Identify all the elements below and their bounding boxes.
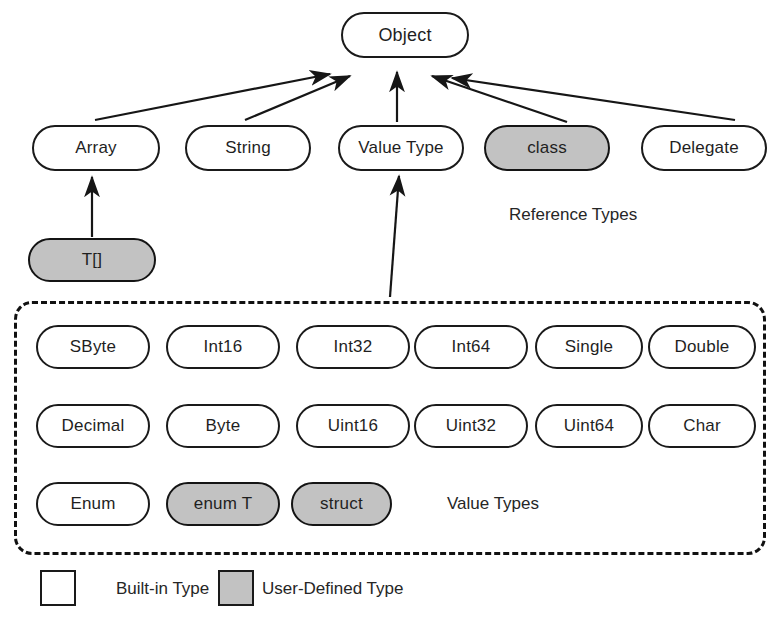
- node-enum-label: Enum: [70, 494, 115, 514]
- legend-label-built-in: Built-in Type: [116, 579, 209, 599]
- edge-array-to-object: [95, 74, 330, 120]
- node-enum[interactable]: Enum: [36, 482, 150, 526]
- edge-valuetypes-group-to-valuetype: [390, 176, 399, 297]
- node-sbyte[interactable]: SByte: [36, 325, 150, 369]
- edge-class-to-object: [432, 76, 567, 122]
- node-enum-t[interactable]: enum T: [166, 482, 280, 526]
- edge-string-to-object: [245, 76, 350, 120]
- value-types-label: Value Types: [447, 494, 539, 514]
- node-uint32-label: Uint32: [446, 416, 496, 436]
- node-struct-label: struct: [320, 494, 363, 514]
- node-uint16-label: Uint16: [328, 416, 378, 436]
- node-t-array[interactable]: T[]: [28, 238, 156, 282]
- node-char-label: Char: [683, 416, 721, 436]
- node-class[interactable]: class: [484, 125, 610, 171]
- node-enum-t-label: enum T: [194, 494, 253, 514]
- node-array[interactable]: Array: [32, 125, 160, 171]
- node-object[interactable]: Object: [341, 12, 469, 58]
- node-int16-label: Int16: [204, 337, 243, 357]
- node-string[interactable]: String: [185, 125, 311, 171]
- reference-types-label: Reference Types: [509, 205, 637, 225]
- node-char[interactable]: Char: [648, 404, 756, 448]
- legend-swatch-user-defined: [218, 570, 254, 606]
- node-decimal-label: Decimal: [62, 416, 125, 436]
- node-array-label: Array: [75, 138, 117, 158]
- node-struct[interactable]: struct: [291, 482, 392, 526]
- node-byte-label: Byte: [206, 416, 241, 436]
- node-decimal[interactable]: Decimal: [36, 404, 150, 448]
- node-single[interactable]: Single: [535, 325, 643, 369]
- node-value-type[interactable]: Value Type: [338, 125, 464, 171]
- node-int64[interactable]: Int64: [414, 325, 528, 369]
- legend-swatch-built-in: [40, 570, 76, 606]
- node-t-array-label: T[]: [82, 250, 102, 270]
- node-double-label: Double: [674, 337, 729, 357]
- node-string-label: String: [225, 138, 271, 158]
- node-int32[interactable]: Int32: [296, 325, 410, 369]
- edge-delegate-to-object: [452, 78, 735, 120]
- node-byte[interactable]: Byte: [166, 404, 280, 448]
- node-delegate-label: Delegate: [669, 138, 739, 158]
- node-uint32[interactable]: Uint32: [414, 404, 528, 448]
- node-int64-label: Int64: [452, 337, 491, 357]
- legend-label-user-defined: User-Defined Type: [262, 579, 403, 599]
- diagram-canvas: Object Array String Value Type class Del…: [0, 0, 778, 624]
- node-uint64-label: Uint64: [564, 416, 614, 436]
- node-sbyte-label: SByte: [70, 337, 116, 357]
- node-double[interactable]: Double: [648, 325, 756, 369]
- node-int32-label: Int32: [334, 337, 373, 357]
- node-object-label: Object: [378, 25, 431, 46]
- node-delegate[interactable]: Delegate: [641, 125, 767, 171]
- node-int16[interactable]: Int16: [166, 325, 280, 369]
- node-value-type-label: Value Type: [358, 138, 444, 158]
- node-uint64[interactable]: Uint64: [535, 404, 643, 448]
- node-single-label: Single: [565, 337, 613, 357]
- node-class-label: class: [527, 138, 567, 158]
- node-uint16[interactable]: Uint16: [296, 404, 410, 448]
